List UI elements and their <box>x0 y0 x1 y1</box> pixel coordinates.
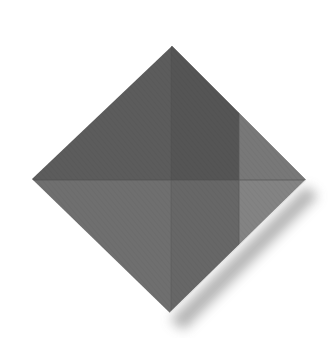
origami-diagram <box>0 0 332 338</box>
paper-diamond <box>30 40 320 320</box>
